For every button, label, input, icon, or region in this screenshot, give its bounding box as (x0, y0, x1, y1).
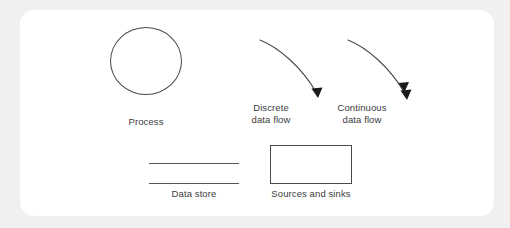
process-circle-shape (110, 27, 182, 95)
sources-and-sinks-rectangle-shape (270, 145, 352, 184)
discrete-data-flow-caption-line1: Discrete (253, 102, 289, 113)
discrete-data-flow-caption-line2: data flow (252, 114, 291, 125)
process-caption: Process (106, 116, 186, 128)
continuous-data-flow-caption-line1: Continuous (337, 102, 386, 113)
continuous-data-flow-arrow-icon (318, 28, 418, 108)
data-store-caption: Data store (149, 188, 239, 200)
discrete-data-flow-caption: Discretedata flow (223, 102, 319, 126)
discrete-data-flow-arrow-icon (230, 28, 330, 108)
sources-and-sinks-caption: Sources and sinks (248, 188, 374, 200)
diagram-canvas: Process Discretedata flow Continuousdata… (20, 10, 494, 216)
data-store-line-top (149, 163, 239, 164)
continuous-data-flow-caption: Continuousdata flow (310, 102, 414, 126)
continuous-data-flow-caption-line2: data flow (343, 114, 382, 125)
data-store-line-bottom (149, 183, 239, 184)
figure-frame: Process Discretedata flow Continuousdata… (0, 0, 510, 228)
